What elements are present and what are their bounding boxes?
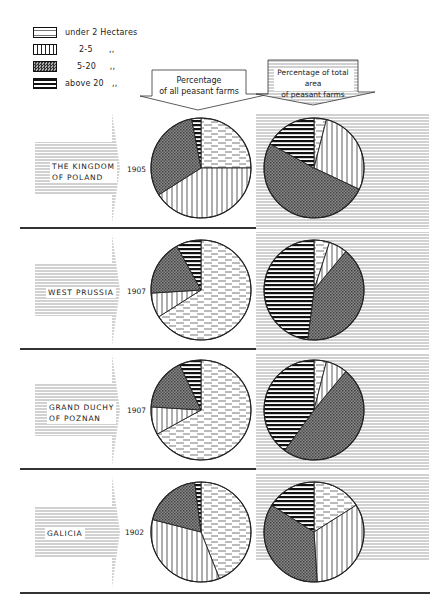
row-divider xyxy=(20,592,430,594)
farms-header-line1: Percentage xyxy=(152,75,246,86)
year-label-poland: 1905 xyxy=(127,165,146,174)
farms-column-header: Percentage of all peasant farms xyxy=(152,75,246,97)
dashed-pattern-swatch-icon xyxy=(33,27,57,38)
region-label-poland: THE KINGDOM OF POLAND xyxy=(50,161,117,183)
area-column-header: Percentage of total area of peasant farm… xyxy=(268,67,358,100)
area-pie-3 xyxy=(264,482,364,582)
region-label-line2: OF POLAND xyxy=(52,172,115,183)
legend-label: 2-5 ,, xyxy=(65,45,115,54)
legend-label: above 20 ,, xyxy=(65,79,118,88)
region-label-line1: THE KINGDOM xyxy=(52,161,115,172)
year-label-west-prussia: 1907 xyxy=(127,287,146,296)
area-header-line2: of peasant farms xyxy=(268,89,358,100)
bold-stripes-swatch-icon xyxy=(33,78,57,89)
farms-pie-2 xyxy=(151,360,251,460)
area-pie-1 xyxy=(264,240,364,340)
area-pie-0 xyxy=(264,118,364,218)
year-label-galicia: 1902 xyxy=(125,528,144,537)
region-label-line1: WEST PRUSSIA xyxy=(48,287,114,298)
legend-item-5-20: 5-20 ,, xyxy=(33,61,115,72)
region-label-west-prussia: WEST PRUSSIA xyxy=(46,287,116,298)
farms-pie-0 xyxy=(151,118,251,218)
legend-item-2-5: 2-5 ,, xyxy=(33,44,115,55)
region-label-line1: GRAND DUCHY xyxy=(49,402,114,413)
vertical-lines-swatch-icon xyxy=(33,44,57,55)
region-label-poznan: GRAND DUCHY OF POZNAN xyxy=(47,402,116,424)
row-divider xyxy=(20,468,256,470)
row-divider xyxy=(20,348,256,350)
farms-header-line2: of all peasant farms xyxy=(152,86,246,97)
pie-slice-under2 xyxy=(201,118,251,168)
row-divider xyxy=(20,227,256,229)
region-label-galicia: GALICIA xyxy=(45,528,85,539)
crosshatch-swatch-icon xyxy=(33,61,57,72)
region-label-line2: OF POZNAN xyxy=(49,413,114,424)
legend-item-above-20: above 20 ,, xyxy=(33,78,118,89)
year-label-poznan: 1907 xyxy=(127,406,146,415)
legend-item-under-2: under 2 Hectares xyxy=(33,27,137,38)
farms-pie-1 xyxy=(151,240,251,340)
farms-pie-3 xyxy=(151,482,251,582)
legend-label: 5-20 ,, xyxy=(65,62,115,71)
region-label-line1: GALICIA xyxy=(47,528,83,539)
area-header-line1: Percentage of total area xyxy=(268,67,358,89)
legend-label: under 2 Hectares xyxy=(65,28,137,37)
area-pie-2 xyxy=(264,360,364,460)
